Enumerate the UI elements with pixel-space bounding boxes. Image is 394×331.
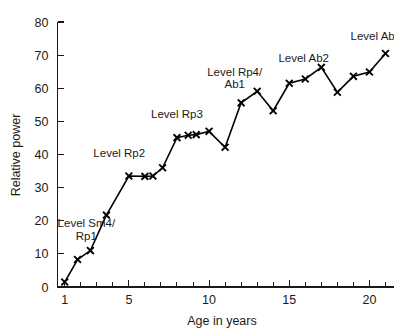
data-point-marker [382,50,389,57]
data-point-marker [222,144,229,151]
annotation-level-ab2: Level Ab2 [278,52,329,64]
y-tick-label: 80 [35,16,49,30]
y-axis-title: Relative power [9,114,23,197]
x-tick-label: 15 [282,293,296,307]
data-point-marker [238,99,245,106]
y-tick-label: 50 [35,115,49,129]
data-point-marker [270,107,277,114]
annotation-level-sm4-rp1: Level Sm4/Rp1 [58,217,116,242]
data-point-marker [254,88,261,95]
data-point-marker [159,164,166,171]
y-tick-label: 20 [35,214,49,228]
level-annotations: Level Sm4/Rp1Level Rp2Level Rp3Level Rp4… [58,30,394,242]
x-axis-title: Age in years [187,314,256,328]
x-tick-label: 10 [202,293,216,307]
y-tick-label: 10 [35,247,49,261]
data-point-marker [318,64,325,71]
annotation-level-rp4-ab1: Level Rp4/Ab1 [207,66,263,91]
y-axis-tick-labels: 01020304050607080 [35,16,49,295]
y-tick-label: 60 [35,82,49,96]
annotation-level-rp3: Level Rp3 [151,108,203,120]
y-tick-label: 0 [42,281,49,295]
y-tick-label: 40 [35,148,49,162]
annotation-level-ab3: Level Ab [351,30,394,42]
x-tick-label: 5 [125,293,132,307]
x-tick-label: 1 [61,293,68,307]
chart-container: 01020304050607080 15101520 Level Sm4/Rp1… [0,0,394,331]
relative-power-line-chart: 01020304050607080 15101520 Level Sm4/Rp1… [0,0,394,331]
y-tick-label: 30 [35,181,49,195]
x-axis-tick-labels: 15101520 [61,293,376,307]
x-tick-label: 20 [362,293,376,307]
data-point-marker [87,247,94,254]
data-point-marker [74,256,81,263]
y-tick-label: 70 [35,49,49,63]
data-point-marker [334,89,341,96]
annotation-level-rp2: Level Rp2 [93,147,145,159]
